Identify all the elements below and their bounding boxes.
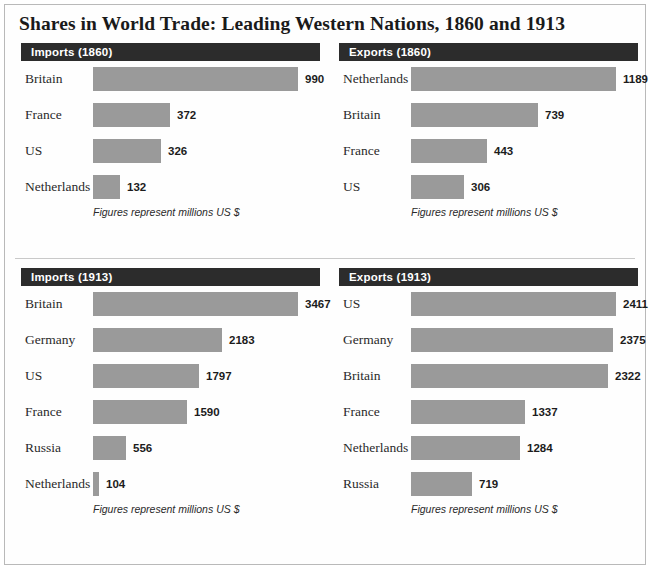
bar-track: 1337: [411, 400, 640, 424]
bar-rows-imports-1913: Britain3467Germany2183US1797France1590Ru…: [17, 286, 322, 502]
bar-value-label: 443: [494, 145, 513, 157]
chart-footnote: Figures represent millions US $: [411, 206, 557, 218]
bar-fill: [411, 436, 520, 460]
bar-fill: [93, 328, 222, 352]
bar-row: Britain3467: [17, 286, 322, 322]
bar-row: US326: [17, 133, 322, 169]
bar-row-label: France: [343, 404, 380, 420]
panel-header-imports-1913: Imports (1913): [21, 268, 320, 286]
bar-row: Netherlands1189: [335, 61, 640, 97]
bar-rows-exports-1913: US2411Germany2375Britain2322France1337Ne…: [335, 286, 640, 502]
bar-track: 990: [93, 67, 322, 91]
bar-rows-exports-1860: Netherlands1189Britain739France443US306: [335, 61, 640, 205]
bar-fill: [93, 400, 187, 424]
bar-value-label: 104: [106, 478, 125, 490]
bar-fill: [411, 175, 464, 199]
bar-fill: [93, 175, 120, 199]
bar-fill: [93, 139, 161, 163]
bar-value-label: 1590: [194, 406, 220, 418]
bar-row-label: US: [343, 179, 360, 195]
bar-row: US2411: [335, 286, 640, 322]
bar-row: Germany2375: [335, 322, 640, 358]
bar-value-label: 556: [133, 442, 152, 454]
bar-track: 132: [93, 175, 322, 199]
bar-row: France443: [335, 133, 640, 169]
bar-fill: [411, 328, 613, 352]
bar-value-label: 1284: [527, 442, 553, 454]
bar-value-label: 2183: [229, 334, 255, 346]
bar-value-label: 2411: [623, 298, 648, 310]
bar-row-label: Germany: [343, 332, 393, 348]
bar-fill: [93, 67, 298, 91]
bar-row-label: Netherlands: [343, 71, 408, 87]
bar-row-label: Britain: [25, 71, 63, 87]
bar-row-label: France: [343, 143, 380, 159]
bar-row: France372: [17, 97, 322, 133]
bar-value-label: 3467: [305, 298, 331, 310]
bar-row: Russia556: [17, 430, 322, 466]
bar-value-label: 326: [168, 145, 187, 157]
bar-track: 306: [411, 175, 640, 199]
bar-fill: [411, 103, 538, 127]
bar-fill: [93, 103, 170, 127]
panel-header-imports-1860: Imports (1860): [21, 43, 320, 61]
bar-row-label: Netherlands: [343, 440, 408, 456]
bar-track: 2183: [93, 328, 322, 352]
panel-header-label: Imports (1860): [31, 46, 112, 58]
section-divider: [15, 258, 635, 259]
chart-footnote: Figures represent millions US $: [411, 503, 557, 515]
bar-track: 3467: [93, 292, 322, 316]
bar-row-label: France: [25, 107, 62, 123]
bar-fill: [411, 67, 616, 91]
bar-row-label: Russia: [25, 440, 61, 456]
bar-track: 2322: [411, 364, 640, 388]
bar-row: France1590: [17, 394, 322, 430]
panel-header-exports-1860: Exports (1860): [339, 43, 638, 61]
bar-row: Britain2322: [335, 358, 640, 394]
bar-track: 104: [93, 472, 322, 496]
bar-row-label: Germany: [25, 332, 75, 348]
bar-value-label: 372: [177, 109, 196, 121]
bar-row-label: US: [343, 296, 360, 312]
bar-fill: [93, 472, 99, 496]
bar-track: 556: [93, 436, 322, 460]
bar-fill: [411, 292, 616, 316]
bar-row: France1337: [335, 394, 640, 430]
panel-header-label: Exports (1860): [349, 46, 431, 58]
bar-value-label: 719: [479, 478, 498, 490]
bar-value-label: 132: [127, 181, 146, 193]
bar-rows-imports-1860: Britain990France372US326Netherlands132: [17, 61, 322, 205]
chart-footnote: Figures represent millions US $: [93, 503, 239, 515]
bar-value-label: 2322: [615, 370, 641, 382]
bar-track: 2411: [411, 292, 640, 316]
bar-track: 326: [93, 139, 322, 163]
bar-fill: [411, 364, 608, 388]
bar-track: 719: [411, 472, 640, 496]
bar-row: Netherlands104: [17, 466, 322, 502]
bar-row-label: Britain: [343, 107, 381, 123]
panel-header-label: Imports (1913): [31, 271, 112, 283]
bar-row: Netherlands132: [17, 169, 322, 205]
bar-row: Germany2183: [17, 322, 322, 358]
bar-row: US1797: [17, 358, 322, 394]
bar-value-label: 739: [545, 109, 564, 121]
bar-value-label: 2375: [620, 334, 646, 346]
bar-row-label: Netherlands: [25, 179, 90, 195]
bar-row: Russia719: [335, 466, 640, 502]
bar-row-label: US: [25, 143, 42, 159]
panel-header-label: Exports (1913): [349, 271, 431, 283]
chart-figure: Shares in World Trade: Leading Western N…: [4, 4, 646, 565]
bar-value-label: 1189: [623, 73, 648, 85]
bar-row: Netherlands1284: [335, 430, 640, 466]
bar-track: 443: [411, 139, 640, 163]
panel-header-exports-1913: Exports (1913): [339, 268, 638, 286]
bar-track: 1189: [411, 67, 640, 91]
bar-track: 2375: [411, 328, 640, 352]
bar-track: 1797: [93, 364, 322, 388]
panel-imports-1860: Imports (1860) Britain990France372US326N…: [17, 43, 322, 255]
bar-fill: [93, 292, 298, 316]
bar-fill: [411, 472, 472, 496]
bar-row: US306: [335, 169, 640, 205]
bar-row-label: Britain: [25, 296, 63, 312]
bar-row-label: Britain: [343, 368, 381, 384]
